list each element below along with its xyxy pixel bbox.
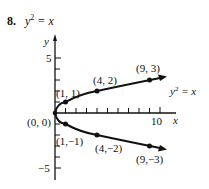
label-4-neg2: (4,−2) <box>95 142 123 155</box>
curve-label: y2 = x <box>169 85 196 97</box>
y-axis-arrow-icon <box>53 34 57 41</box>
curve-label-rhs: = x <box>178 85 196 97</box>
label-9-3: (9, 3) <box>136 62 160 75</box>
y-tick-neg5: −5 <box>38 162 50 174</box>
x-ticks <box>66 107 161 113</box>
upper-arrow-icon <box>158 75 167 82</box>
label-1-1: (1, 1) <box>56 87 80 100</box>
parabola-graph: y x 5 −5 10 (0, 0) (1, 1) (4, 2) (9, 3) … <box>0 0 209 189</box>
label-1-neg1: (1,−1) <box>56 135 84 148</box>
lower-arrow-icon <box>158 145 167 152</box>
y-tick-5: 5 <box>46 52 52 64</box>
x-tick-10: 10 <box>151 115 163 127</box>
label-0-0: (0, 0) <box>27 116 51 129</box>
label-9-neg3: (9,−3) <box>136 153 164 166</box>
x-axis-label: x <box>172 114 178 126</box>
y-axis-label: y <box>43 35 49 47</box>
label-4-2: (4, 2) <box>93 74 117 87</box>
